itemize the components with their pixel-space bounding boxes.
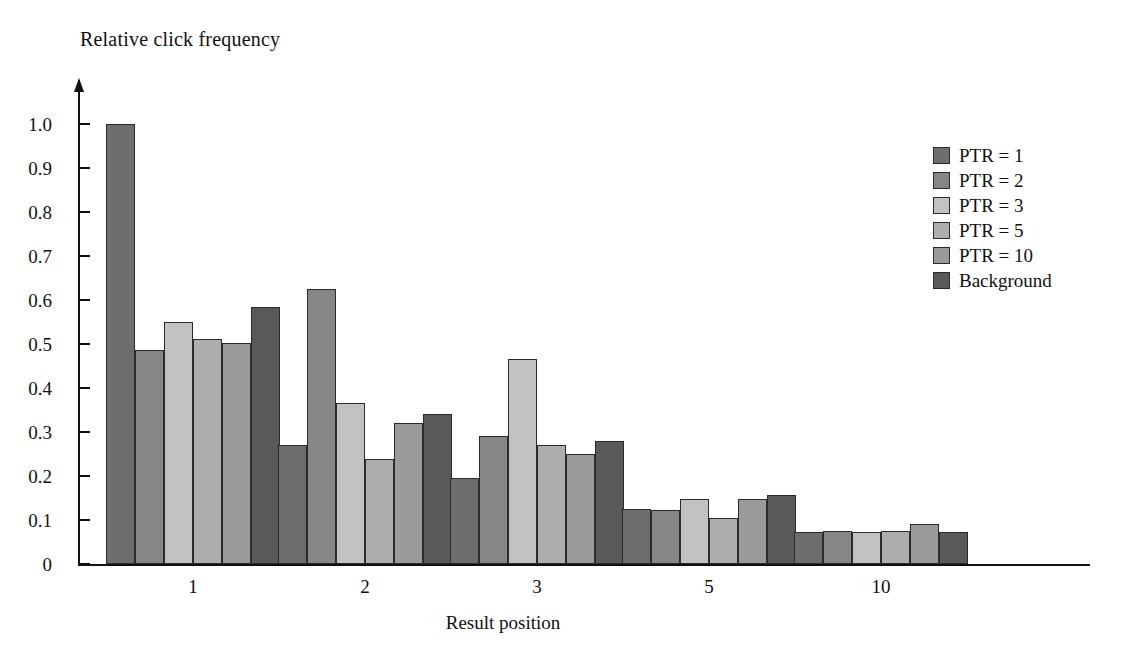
bar [537,445,566,564]
legend-item: PTR = 1 [933,143,1123,168]
x-axis-tick-label: 2 [325,576,405,598]
legend-item-label: PTR = 5 [959,221,1024,240]
bar [135,350,164,564]
y-axis-tick-label: 0.8 [0,203,52,222]
legend-swatch-icon [933,172,950,189]
bar [365,459,394,564]
bar [680,499,709,564]
legend-item: PTR = 2 [933,168,1123,193]
bar [738,499,767,564]
bar-chart: Relative click frequency 00.10.20.30.40.… [0,0,1126,658]
chart-legend: PTR = 1PTR = 2PTR = 3PTR = 5PTR = 10Back… [933,143,1123,293]
bar [595,441,624,564]
bar [508,359,537,564]
legend-swatch-icon [933,222,950,239]
bar [423,414,452,564]
bar [939,532,968,564]
legend-item: PTR = 3 [933,193,1123,218]
bar [709,518,738,564]
bar [251,307,280,564]
bar [193,339,222,564]
legend-swatch-icon [933,247,950,264]
x-axis-title-text: Result position [446,612,561,633]
bar [823,531,852,564]
bar [450,478,479,564]
bar [881,531,910,564]
bar [106,124,135,564]
bar [479,436,508,564]
bar [307,289,336,564]
x-axis-tick-label: 5 [669,576,749,598]
bar [622,509,651,564]
bar [278,445,307,564]
y-axis-tick-label: 0.5 [0,335,52,354]
legend-swatch-icon [933,272,950,289]
legend-item: PTR = 10 [933,243,1123,268]
legend-item-label: PTR = 1 [959,146,1024,165]
y-axis-tick-label: 0.2 [0,467,52,486]
bar [164,322,193,564]
legend-item-label: PTR = 2 [959,171,1024,190]
legend-item-label: PTR = 3 [959,196,1024,215]
bar [222,343,251,564]
bar [651,510,680,564]
y-axis-tick-label: 0 [0,555,52,574]
y-axis-tick-label: 1.0 [0,115,52,134]
y-axis-tick-label: 0.7 [0,247,52,266]
y-axis-tick-label: 0.1 [0,511,52,530]
bar [910,524,939,564]
y-axis-tick-label: 0.9 [0,159,52,178]
legend-item: PTR = 5 [933,218,1123,243]
y-axis-tick-label: 0.4 [0,379,52,398]
bar [394,423,423,564]
legend-swatch-icon [933,147,950,164]
legend-item: Background [933,268,1123,293]
bar [767,495,796,564]
x-axis-title: Result position [0,612,1126,634]
x-axis-tick-label: 10 [841,576,921,598]
bar [336,403,365,564]
legend-item-label: PTR = 10 [959,246,1033,265]
bar [566,454,595,564]
bar [794,532,823,564]
legend-swatch-icon [933,197,950,214]
x-axis-tick-label: 3 [497,576,577,598]
x-axis-tick-label: 1 [153,576,233,598]
bar [852,532,881,564]
y-axis-tick-label: 0.6 [0,291,52,310]
y-axis-title: Relative click frequency [80,28,280,51]
y-axis-tick-label: 0.3 [0,423,52,442]
legend-item-label: Background [959,271,1052,290]
